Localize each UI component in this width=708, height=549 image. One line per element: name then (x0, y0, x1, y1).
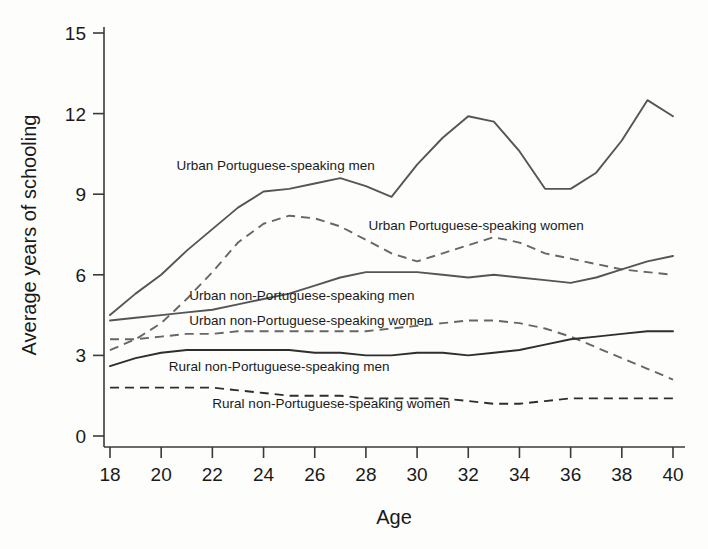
series-line-urban-portuguese-speaking-men (110, 100, 673, 315)
x-tick-label: 20 (151, 464, 172, 485)
y-tick-label: 3 (75, 345, 86, 366)
series-line-urban-portuguese-speaking-women (110, 216, 673, 350)
y-axis-ticks: 03691215 (65, 23, 104, 447)
y-tick-label: 9 (75, 184, 86, 205)
x-tick-label: 34 (509, 464, 531, 485)
x-tick-label: 28 (355, 464, 376, 485)
x-tick-label: 40 (662, 464, 683, 485)
series-annotation-label: Rural non-Portuguese-speaking men (169, 359, 390, 374)
line-chart-canvas: 03691215 182022242628303234363840 Urban … (0, 0, 708, 549)
series-annotation-label: Urban non-Portuguese-speaking men (189, 288, 414, 303)
series-annotation-label: Rural non-Portuguese-speaking women (212, 396, 450, 411)
x-tick-label: 36 (560, 464, 581, 485)
axes-group (104, 27, 685, 447)
x-tick-label: 18 (99, 464, 120, 485)
series-annotation-label: Urban non-Portuguese-speaking women (189, 313, 431, 328)
y-axis-title: Average years of schooling (18, 115, 40, 356)
x-axis-title: Age (376, 506, 412, 528)
series-annotation-label: Urban Portuguese-speaking women (368, 218, 583, 233)
x-tick-label: 26 (304, 464, 325, 485)
series-annotation-label: Urban Portuguese-speaking men (177, 158, 375, 173)
chart-figure: 03691215 182022242628303234363840 Urban … (0, 0, 708, 549)
x-axis-ticks: 182022242628303234363840 (99, 447, 683, 485)
y-tick-label: 15 (65, 23, 86, 44)
y-tick-label: 6 (75, 265, 86, 286)
x-tick-label: 22 (202, 464, 223, 485)
x-tick-label: 24 (253, 464, 275, 485)
y-tick-label: 0 (75, 426, 86, 447)
y-tick-label: 12 (65, 104, 86, 125)
x-tick-label: 32 (458, 464, 479, 485)
series-inline-labels: Urban Portuguese-speaking menUrban Portu… (169, 158, 584, 412)
x-tick-label: 38 (611, 464, 632, 485)
x-tick-label: 30 (407, 464, 428, 485)
